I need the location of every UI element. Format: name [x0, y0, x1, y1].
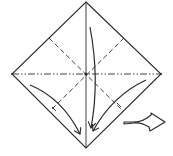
origami-diagram: [0, 0, 173, 156]
turn-over-arrow-icon: [124, 113, 165, 131]
left-point: [11, 73, 13, 75]
tick-mark: [117, 103, 121, 107]
center-point: [84, 72, 87, 75]
right-point: [160, 73, 162, 75]
center-fold-arrow-icon: [90, 27, 95, 128]
